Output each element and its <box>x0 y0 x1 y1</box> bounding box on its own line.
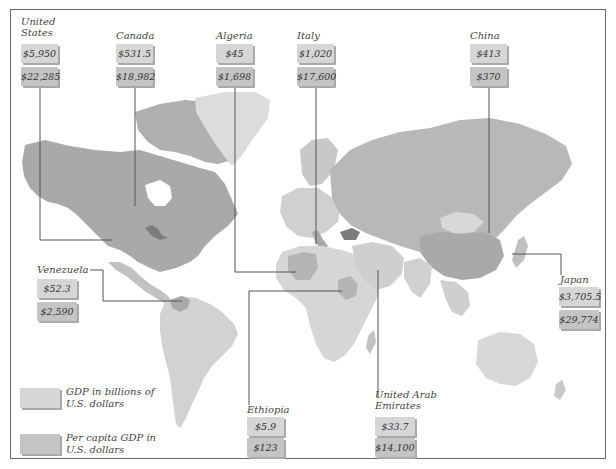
country-name-china: China <box>470 30 500 41</box>
per-capita-value-united-states: $22,285 <box>21 67 58 86</box>
gdp-value-united-arab-emirates: $33.7 <box>375 417 415 436</box>
japan-land <box>512 236 528 268</box>
gdp-value-united-states: $5,950 <box>21 44 58 63</box>
madagascar <box>366 330 376 354</box>
gdp-value-algeria: $45 <box>216 44 253 63</box>
per-capita-value-canada: $18,982 <box>116 67 153 86</box>
gdp-value-japan: $3,705.5 <box>559 287 599 306</box>
legend-swatch-gdp <box>20 388 60 408</box>
per-capita-value-algeria: $1,698 <box>216 67 253 86</box>
country-name-italy: Italy <box>297 30 320 41</box>
china-land <box>420 232 504 280</box>
legend-label-gdp: GDP in billions of U.S. dollars <box>66 386 154 410</box>
western-europe <box>280 188 340 238</box>
southeast-asia <box>440 280 470 316</box>
country-name-japan: Japan <box>560 274 589 285</box>
gdp-value-china: $413 <box>470 44 507 63</box>
legend-label-per-capita: Per capita GDP in U.S. dollars <box>66 432 156 456</box>
country-name-united-arab-emirates: United Arab Emirates <box>375 389 437 411</box>
gdp-value-italy: $1,020 <box>297 44 334 63</box>
legend-label-line2: U.S. dollars <box>66 444 156 456</box>
per-capita-value-italy: $17,600 <box>297 67 334 86</box>
country-name-line1: United Arab <box>375 389 437 400</box>
gdp-value-venezuela: $52.3 <box>37 279 77 298</box>
country-name-venezuela: Venezuela <box>37 264 88 275</box>
country-name-line1: United <box>21 16 55 27</box>
per-capita-value-united-arab-emirates: $14,100 <box>375 438 415 457</box>
new-zealand <box>554 380 566 400</box>
south-america <box>160 296 238 428</box>
black-sea <box>340 228 360 240</box>
gdp-value-canada: $531.5 <box>116 44 153 63</box>
country-name-canada: Canada <box>116 30 154 41</box>
per-capita-value-ethiopia: $123 <box>247 438 284 457</box>
per-capita-value-venezuela: $2,590 <box>37 302 77 321</box>
legend-label-line1: Per capita GDP in <box>66 432 156 444</box>
country-name-algeria: Algeria <box>216 30 253 41</box>
country-name-line2: Emirates <box>375 400 437 411</box>
australia <box>476 332 538 386</box>
south-america-land <box>160 296 238 428</box>
legend-label-line2: U.S. dollars <box>66 398 154 410</box>
legend-label-line1: GDP in billions of <box>66 386 154 398</box>
country-name-line2: States <box>21 27 55 38</box>
per-capita-value-japan: $29,774 <box>559 310 599 329</box>
country-name-ethiopia: Ethiopia <box>247 404 290 415</box>
legend-swatch-per-capita <box>20 434 60 454</box>
country-name-united-states: United States <box>21 16 55 38</box>
gdp-value-ethiopia: $5.9 <box>247 417 284 436</box>
india <box>404 258 432 298</box>
per-capita-value-china: $370 <box>470 67 507 86</box>
